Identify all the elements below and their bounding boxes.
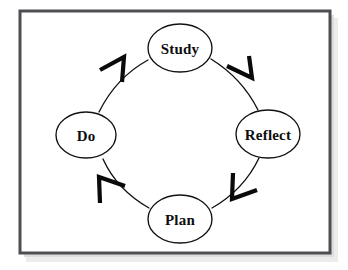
node-plan[interactable]: Plan [148,195,212,243]
node-do-label: Do [77,128,96,144]
node-study[interactable]: Study [148,24,212,72]
node-reflect[interactable]: Reflect [236,110,300,158]
diagram-canvas: Study Reflect Plan Do [0,0,348,270]
node-plan-label: Plan [165,212,195,228]
cycle-diagram: Study Reflect Plan Do [0,0,348,270]
node-reflect-label: Reflect [245,127,291,143]
node-do[interactable]: Do [56,112,116,158]
node-study-label: Study [161,41,200,57]
